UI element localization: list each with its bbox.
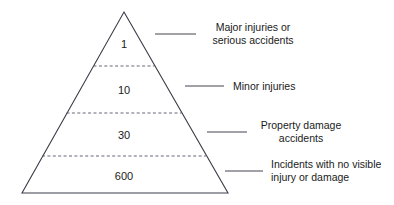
safety-pyramid-diagram: 1 10 30 600 Major injuries or serious ac…: [0, 0, 394, 205]
tier-label-major-injuries-line1: Major injuries or: [216, 21, 291, 33]
tier-value-10: 10: [118, 84, 130, 96]
tier-label-minor-injuries-line1: Minor injuries: [233, 80, 295, 92]
tier-label-property-damage-line1: Property damage: [261, 119, 342, 131]
tier-value-600: 600: [115, 170, 133, 182]
tier-label-major-injuries-line2: serious accidents: [212, 34, 293, 46]
pyramid-graphic: 1 10 30 600 Major injuries or serious ac…: [0, 0, 394, 205]
tier-label-no-visible-injury-line1: Incidents with no visible: [271, 158, 381, 170]
tier-label-no-visible-injury-line2: injury or damage: [271, 171, 349, 183]
tier-value-30: 30: [118, 129, 130, 141]
tier-value-1: 1: [121, 38, 127, 50]
tier-label-property-damage-line2: accidents: [279, 132, 323, 144]
